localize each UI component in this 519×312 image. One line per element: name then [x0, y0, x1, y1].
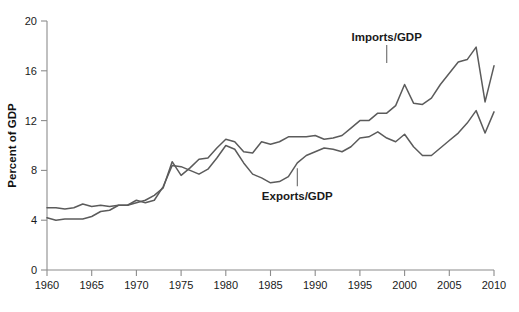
x-tick-label: 1990 [303, 279, 327, 291]
x-tick-label: 1995 [348, 279, 372, 291]
x-tick-label: 1970 [124, 279, 148, 291]
x-tick-label: 1960 [35, 279, 59, 291]
annotation-group: Imports/GDP Exports/GDP [262, 31, 422, 202]
y-tick-label: 20 [25, 15, 37, 27]
x-tick-label: 1980 [214, 279, 238, 291]
x-tick-label: 2000 [392, 279, 416, 291]
exports-imports-gdp-chart: 048121620 196019651970197519801985199019… [0, 0, 519, 312]
y-tick-label: 0 [31, 264, 37, 276]
y-tick-label: 12 [25, 115, 37, 127]
y-axis-title: Percent of GDP [6, 103, 18, 188]
x-tick-group: 1960196519701975198019851990199520002005… [35, 270, 506, 291]
y-tick-label: 4 [31, 214, 37, 226]
x-tick-label: 1965 [79, 279, 103, 291]
x-axis-group: 1960196519701975198019851990199520002005… [35, 270, 506, 291]
annotation-exports-label: Exports/GDP [262, 190, 333, 202]
y-tick-label: 8 [31, 164, 37, 176]
x-tick-label: 2005 [437, 279, 461, 291]
x-tick-label: 2010 [482, 279, 506, 291]
annotation-imports-label: Imports/GDP [352, 31, 423, 43]
x-tick-label: 1985 [258, 279, 282, 291]
y-tick-group: 048121620 [25, 15, 47, 276]
y-axis-group: 048121620 [25, 15, 47, 276]
y-tick-label: 16 [25, 65, 37, 77]
chart-svg: 048121620 196019651970197519801985199019… [0, 0, 519, 312]
x-tick-label: 1975 [169, 279, 193, 291]
y-axis-title-group: Percent of GDP [6, 103, 18, 188]
